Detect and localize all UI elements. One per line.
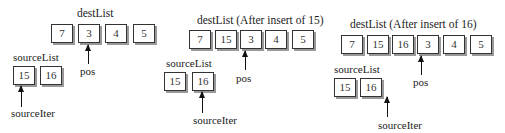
source-iter-label: sourceIter (378, 119, 422, 131)
source-node: 16 (360, 78, 382, 97)
pos-arrow-icon (421, 56, 422, 75)
dest-node: 16 (392, 35, 414, 54)
pos-label: pos (413, 76, 428, 88)
dest-node: 5 (470, 35, 492, 54)
source-node: 15 (334, 78, 356, 97)
dest-node: 4 (443, 35, 465, 54)
dest-node: 15 (367, 35, 389, 54)
panel-after-insert-16: destList (After insert of 16) 7 15 16 3 … (0, 0, 505, 133)
dest-node: 7 (341, 35, 363, 54)
dest-list-title: destList (After insert of 16) (350, 18, 476, 30)
source-iter-arrow-icon (387, 97, 388, 117)
source-list-title: sourceList (334, 63, 380, 75)
dest-node: 3 (417, 35, 439, 54)
